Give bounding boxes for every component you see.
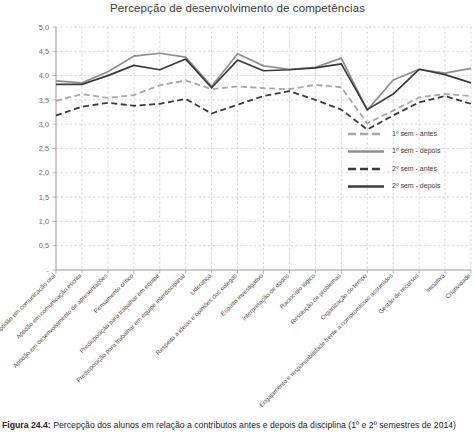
figure-container: Percepção de desenvolvimento de competên…	[0, 0, 475, 436]
caption-label: Figura 24.4:	[2, 420, 51, 430]
legend-label: 2º sem - antes	[392, 165, 437, 172]
y-axis-tick-label: 3,0	[39, 120, 49, 129]
legend-label: 1º sem - depois	[392, 147, 441, 155]
y-axis-tick-label: 4,5	[39, 47, 49, 56]
y-axis-tick-label: 5,0	[39, 23, 49, 32]
y-axis-tick-label: 2,5	[39, 144, 49, 153]
y-axis-tick-label: 1,5	[39, 193, 49, 202]
y-axis-tick-label: 2,0	[39, 168, 49, 177]
figure-caption: Figura 24.4: Percepção dos alunos em rel…	[2, 420, 474, 431]
y-axis-tick-label: 3,5	[39, 96, 49, 105]
y-axis-tick-label: 1,0	[39, 217, 49, 226]
x-axis-tick-label: Liderança	[188, 271, 213, 296]
legend-label: 1º sem - antes	[392, 130, 437, 137]
caption-text: Percepção dos alunos em relação a contri…	[53, 420, 456, 430]
x-axis-tick-label: Organização do tempo	[319, 271, 369, 321]
x-axis-tick-label: Aptidão em desenvolvimento de apresentaç…	[11, 272, 108, 369]
x-axis-tick-label: Criatividade	[444, 271, 472, 299]
x-axis-tick-label: Interpretação de dados	[240, 272, 290, 322]
y-axis-tick-label: 4,0	[39, 71, 49, 80]
x-axis-tick-label: Resolução de problemas	[289, 272, 342, 325]
x-axis-tick-label: Iniciativa	[424, 271, 446, 293]
line-chart: -0,51,01,52,02,53,03,54,04,55,0Aptidão e…	[0, 0, 475, 420]
y-axis-tick-label: 0,5	[39, 241, 49, 250]
legend-label: 2º sem - depois	[392, 182, 441, 190]
